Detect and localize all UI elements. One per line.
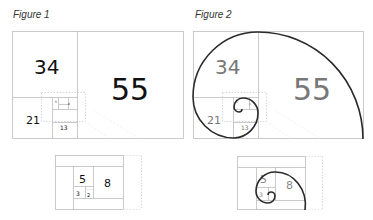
figure-1-labels: 34 55 21 13 8 5 — [26, 55, 149, 131]
fig2-inset-label-8: 8 — [286, 179, 293, 192]
fig1-label-5: 5 — [55, 100, 57, 104]
figure-2-labels: 34 55 21 13 8 5 — [207, 55, 331, 131]
figure-2-inset-labels: 5 8 3 — [259, 173, 293, 198]
fig2-label-21: 21 — [207, 114, 221, 127]
figure-2-inset — [238, 157, 323, 210]
fig2-label-8: 8 — [249, 102, 251, 106]
fig2-label-55: 55 — [293, 72, 331, 107]
fig1-inset-label-3: 3 — [76, 190, 80, 197]
fig2-label-13: 13 — [241, 124, 249, 131]
fig1-inset-label-5: 5 — [79, 173, 86, 186]
fig1-inset-label-2: 2 — [87, 192, 90, 198]
fig1-label-34: 34 — [34, 55, 59, 79]
fibonacci-diagram: 34 55 21 13 8 5 5 8 3 2 — [0, 0, 373, 220]
fig2-inset-label-3: 3 — [259, 191, 263, 198]
figure-1-inset — [56, 156, 142, 210]
fig1-label-8: 8 — [68, 102, 70, 106]
fig1-label-21: 21 — [26, 114, 40, 127]
fig1-label-55: 55 — [111, 72, 149, 107]
fig1-inset-label-8: 8 — [104, 177, 111, 190]
fig1-label-13: 13 — [60, 124, 68, 131]
fig2-label-34: 34 — [215, 55, 240, 79]
